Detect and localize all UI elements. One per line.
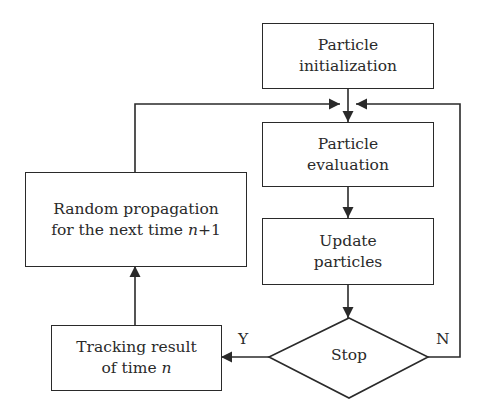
edge-label-yes: Y: [238, 330, 248, 348]
node-text-line1: Random propagation: [53, 199, 219, 220]
node-text-line1: Particle: [318, 134, 378, 155]
time-variable: n: [188, 221, 198, 239]
tracking-result-box: Tracking result of time n: [51, 325, 222, 391]
update-particles-box: Update particles: [262, 218, 434, 285]
node-text-line1: Update: [319, 231, 377, 252]
edge-label-no: N: [436, 330, 450, 348]
particle-evaluation-box: Particle evaluation: [262, 122, 434, 187]
node-text-line2: initialization: [299, 56, 397, 77]
node-text-line2: particles: [314, 252, 383, 273]
random-propagation-box: Random propagation for the next time n+1: [25, 172, 247, 267]
node-text-line2: evaluation: [307, 155, 389, 176]
time-variable: n: [162, 359, 172, 377]
node-text-prefix: of time: [102, 359, 162, 377]
node-text-line2: for the next time n+1: [51, 220, 221, 241]
node-text-line1: Tracking result: [76, 337, 197, 358]
particle-initialization-box: Particle initialization: [262, 23, 434, 89]
stop-decision-label: Stop: [269, 346, 429, 364]
node-text-prefix: for the next time: [51, 221, 188, 239]
flowchart-canvas: Particle initialization Particle evaluat…: [0, 0, 486, 414]
node-text-line1: Particle: [318, 35, 378, 56]
node-text-line2: of time n: [102, 358, 172, 379]
node-text-suffix: +1: [198, 221, 221, 239]
